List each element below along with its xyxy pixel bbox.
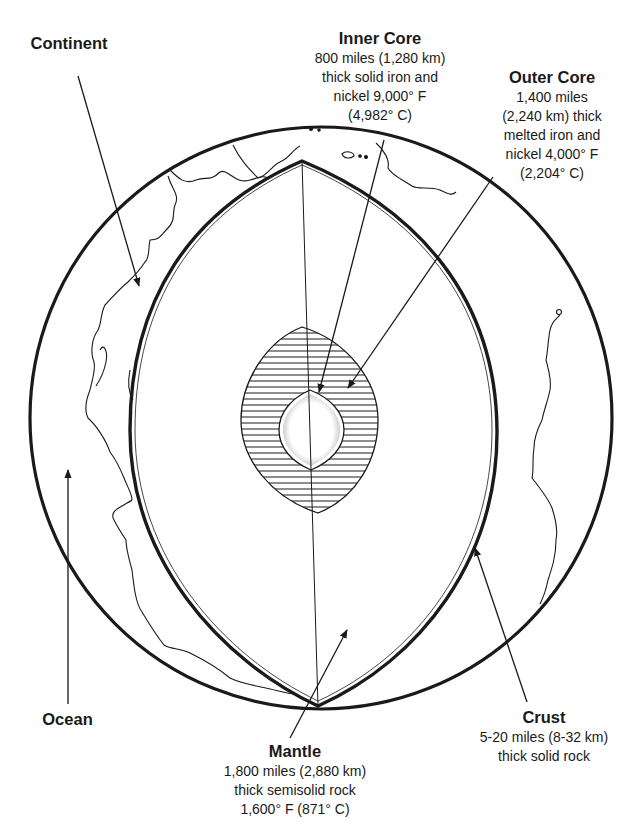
- outer-core-arrow: [348, 177, 493, 388]
- outer-core-title: Outer Core: [482, 66, 622, 88]
- outer-core-desc-4: nickel 4,000° F: [482, 145, 622, 164]
- mantle-arrow: [290, 630, 347, 738]
- crust-desc-2: thick solid rock: [456, 747, 630, 766]
- inner-core-desc-4: (4,982° C): [300, 106, 460, 125]
- inner-core-arrow: [319, 140, 384, 392]
- crust-desc-1: 5-20 miles (8-32 km): [456, 728, 630, 747]
- continent-arrow: [78, 76, 139, 286]
- inner-core-desc-3: nickel 9,000° F: [300, 87, 460, 106]
- ocean-title: Ocean: [20, 708, 115, 730]
- inner-core-title: Inner Core: [300, 27, 460, 49]
- continent-title: Continent: [14, 32, 124, 54]
- crust-arrow: [475, 548, 527, 702]
- crust-title: Crust: [456, 706, 630, 728]
- mantle-desc-3: 1,600° F (871° C): [190, 800, 400, 819]
- mantle-desc-2: thick semisolid rock: [190, 781, 400, 800]
- outer-core-label: Outer Core 1,400 miles (2,240 km) thick …: [482, 66, 622, 183]
- outer-core-desc-2: (2,240 km) thick: [482, 107, 622, 126]
- inner-core-desc-2: thick solid iron and: [300, 68, 460, 87]
- continent-label: Continent: [14, 32, 124, 54]
- mantle-desc-1: 1,800 miles (2,880 km): [190, 762, 400, 781]
- outer-core-desc-5: (2,204° C): [482, 164, 622, 183]
- outer-core-desc-1: 1,400 miles: [482, 88, 622, 107]
- mantle-label: Mantle 1,800 miles (2,880 km) thick semi…: [190, 740, 400, 819]
- inner-core-desc-1: 800 miles (1,280 km): [300, 49, 460, 68]
- inner-core-label: Inner Core 800 miles (1,280 km) thick so…: [300, 27, 460, 125]
- mantle-title: Mantle: [190, 740, 400, 762]
- crust-label: Crust 5-20 miles (8-32 km) thick solid r…: [456, 706, 630, 766]
- ocean-label: Ocean: [20, 708, 115, 730]
- outer-core-desc-3: melted iron and: [482, 126, 622, 145]
